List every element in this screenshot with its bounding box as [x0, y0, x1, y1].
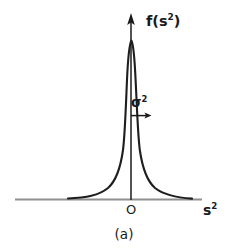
- variance-label-exponent: 2: [142, 94, 148, 104]
- y-axis-label-base: f(s: [146, 13, 168, 29]
- variance-label-base: σ: [131, 94, 142, 110]
- variance-annotation-label: σ2: [131, 96, 147, 110]
- origin-label: O: [126, 203, 136, 216]
- x-axis-label-exponent: 2: [211, 201, 217, 211]
- y-axis-label-tail: ): [174, 13, 181, 29]
- density-curve: [68, 41, 192, 199]
- figure-container: f(s2) s2 O σ2 (a): [0, 0, 248, 252]
- x-axis-label: s2: [203, 203, 217, 217]
- y-axis-label: f(s2): [146, 14, 180, 29]
- figure-caption: (a): [0, 228, 248, 242]
